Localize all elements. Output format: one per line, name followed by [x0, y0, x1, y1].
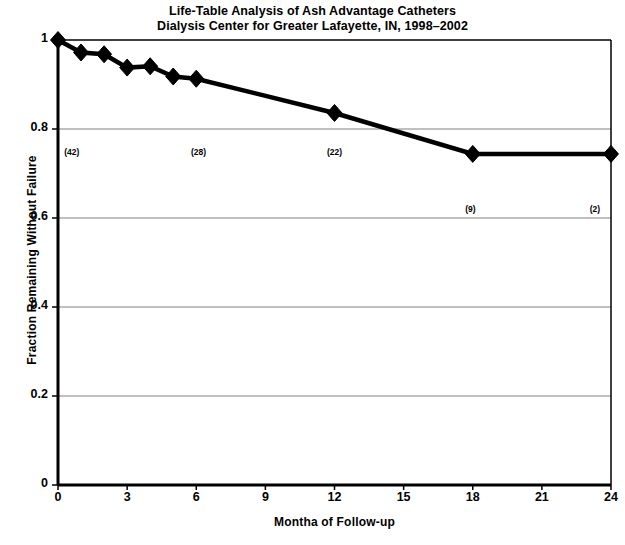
x-axis-title: Montha of Follow-up [58, 515, 611, 529]
at-risk-count-label: (2) [575, 204, 615, 214]
y-tick-label: 0.8 [4, 120, 48, 134]
data-point-marker [166, 68, 181, 85]
x-tick-label: 9 [245, 490, 285, 504]
data-point-marker [465, 145, 480, 162]
x-tick-label: 3 [107, 490, 147, 504]
y-tick-label: 0.6 [4, 209, 48, 223]
at-risk-count-label: (9) [450, 204, 490, 214]
x-tick-label: 0 [38, 490, 78, 504]
x-tick-label: 18 [453, 490, 493, 504]
at-risk-count-label: (28) [179, 147, 219, 157]
y-tick-label: 0 [4, 476, 48, 490]
data-series-layer [51, 32, 619, 163]
data-point-marker [97, 46, 112, 63]
y-tick-label: 0.2 [4, 387, 48, 401]
x-tick-label: 12 [315, 490, 355, 504]
data-point-marker [120, 59, 135, 76]
data-point-marker [143, 58, 158, 75]
data-point-marker [51, 32, 66, 49]
data-point-marker [327, 104, 342, 121]
x-tick-label: 15 [384, 490, 424, 504]
chart-title: Life-Table Analysis of Ash Advantage Cat… [0, 4, 625, 34]
chart-title-line1: Life-Table Analysis of Ash Advantage Cat… [169, 4, 456, 18]
at-risk-count-label: (42) [52, 147, 92, 157]
y-tick-label: 1 [4, 31, 48, 45]
series-line [58, 40, 611, 154]
x-tick-label: 21 [522, 490, 562, 504]
x-tick-label: 6 [176, 490, 216, 504]
gridlines [58, 129, 611, 396]
x-tick-label: 24 [591, 490, 625, 504]
data-point-marker [604, 145, 619, 162]
chart-title-line2: Dialysis Center for Greater Lafayette, I… [0, 19, 625, 34]
life-table-chart: Life-Table Analysis of Ash Advantage Cat… [0, 0, 625, 545]
data-point-marker [74, 44, 89, 61]
data-point-marker [189, 70, 204, 87]
y-tick-label: 0.4 [4, 298, 48, 312]
plot-canvas [0, 0, 625, 545]
at-risk-count-label: (22) [315, 147, 355, 157]
plot-frame [58, 34, 611, 485]
